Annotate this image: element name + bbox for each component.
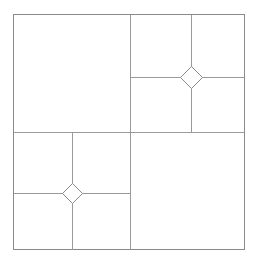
quilt-block-diagram: [0, 0, 259, 271]
quilt-svg-canvas: [0, 0, 259, 271]
canvas-background: [0, 0, 259, 271]
page-root: Dad's Bow Tie: [0, 0, 259, 271]
